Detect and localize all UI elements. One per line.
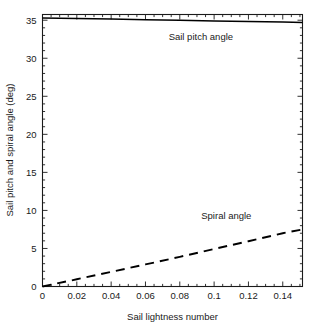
y-tick-label: 10 bbox=[26, 205, 37, 216]
y-tick-label: 30 bbox=[26, 53, 37, 64]
x-axis-title: Sail lightness number bbox=[127, 311, 218, 322]
x-tick-label: 0.14 bbox=[274, 290, 293, 301]
y-tick-label: 35 bbox=[26, 15, 37, 26]
x-tick-label: 0.04 bbox=[102, 290, 121, 301]
chart-figure: 00.020.040.060.080.10.120.14 05101520253… bbox=[0, 0, 316, 330]
x-tick-label: 0 bbox=[40, 290, 45, 301]
x-tick-label: 0.12 bbox=[239, 290, 258, 301]
x-tick-label: 0.1 bbox=[208, 290, 221, 301]
x-tick-label: 0.08 bbox=[171, 290, 190, 301]
x-tick-label: 0.02 bbox=[68, 290, 87, 301]
y-tick-label: 0 bbox=[31, 281, 36, 292]
line-chart: 00.020.040.060.080.10.120.14 05101520253… bbox=[0, 0, 316, 330]
series-annotation-label: Sail pitch angle bbox=[169, 31, 233, 42]
series-annotation-label: Spiral angle bbox=[201, 210, 251, 221]
y-tick-label: 25 bbox=[26, 91, 37, 102]
x-tick-label: 0.06 bbox=[136, 290, 155, 301]
y-tick-label: 15 bbox=[26, 167, 37, 178]
chart-background bbox=[0, 0, 316, 330]
y-tick-label: 20 bbox=[26, 129, 37, 140]
y-tick-label: 5 bbox=[31, 243, 36, 254]
y-axis-title: Sail pitch and spiral angle (deg) bbox=[4, 83, 15, 216]
